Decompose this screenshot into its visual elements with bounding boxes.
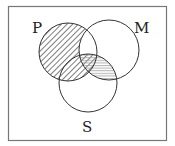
venn-diagram: P M S	[0, 0, 175, 146]
label-s: S	[82, 118, 92, 136]
label-m: M	[134, 19, 149, 37]
label-p: P	[32, 19, 42, 37]
